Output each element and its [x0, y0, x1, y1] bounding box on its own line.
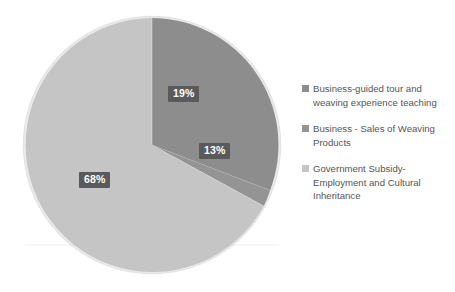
pie-chart: 19% 13% 68% Business-guided tour and wea…: [0, 0, 455, 292]
legend-item-label: Business-guided tour and weaving experie…: [313, 82, 451, 109]
pie-svg: [0, 0, 300, 292]
legend-marker-icon: [302, 165, 309, 172]
pie-plot-area: 19% 13% 68%: [0, 0, 300, 292]
legend-marker-icon: [302, 125, 309, 132]
legend-item-guided-tour[interactable]: Business-guided tour and weaving experie…: [302, 82, 452, 109]
legend-item-label: Business - Sales of Weaving Products: [313, 122, 451, 149]
legend-item-weaving-sales[interactable]: Business - Sales of Weaving Products: [302, 122, 452, 149]
legend: Business-guided tour and weaving experie…: [302, 82, 452, 216]
pie-data-label-19: 19%: [168, 86, 199, 102]
legend-item-label: Government Subsidy-Employment and Cultur…: [313, 162, 451, 203]
pie-data-label-68: 68%: [79, 172, 110, 188]
legend-marker-icon: [302, 85, 309, 92]
legend-item-government-subsidy[interactable]: Government Subsidy-Employment and Cultur…: [302, 162, 452, 203]
pie-data-label-13: 13%: [199, 143, 230, 159]
